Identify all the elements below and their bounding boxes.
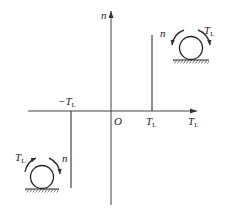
axis-label-tl: TL — [188, 116, 198, 129]
motor-upper-tl-label: TL — [204, 25, 214, 38]
arrow-tl-icon — [25, 158, 36, 172]
origin-label: O — [114, 116, 122, 127]
diagram-canvas — [0, 0, 229, 218]
motor-lower-tl-label: TL — [15, 152, 25, 165]
tick-label-negative-tl: −TL — [58, 96, 76, 109]
motor-icon-lower-left — [25, 158, 60, 193]
motor-upper-n-label: n — [160, 28, 166, 39]
arrow-n-icon — [49, 158, 60, 174]
motor-lower-n-label: n — [62, 153, 68, 164]
tick-label-positive-tl: TL — [146, 116, 156, 129]
axis-label-n: n — [101, 10, 107, 21]
arrow-n-icon — [172, 30, 184, 45]
